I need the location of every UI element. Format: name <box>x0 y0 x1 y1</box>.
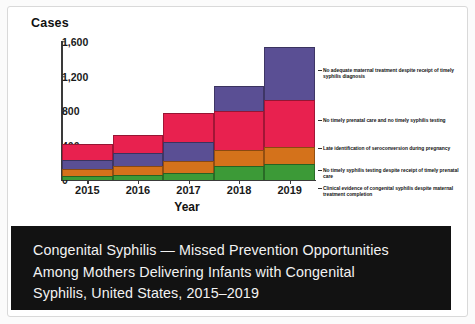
caption-line-2: Among Mothers Delivering Infants with Co… <box>33 262 433 284</box>
bar-column-2015 <box>62 42 113 180</box>
bar-segment <box>113 166 164 175</box>
annotation-text: No timely prenatal care and no timely sy… <box>323 118 446 123</box>
scanned-page: Cases 04008001,2001,600 2015201620172018… <box>0 0 475 324</box>
x-axis-tick-label-2015: 2015 <box>75 184 99 196</box>
bar-segment <box>62 169 113 175</box>
chart-figure: Cases 04008001,2001,600 2015201620172018… <box>11 10 464 220</box>
bar-segment <box>264 100 315 147</box>
caption-line-1: Congenital Syphilis — Missed Prevention … <box>33 240 433 262</box>
annotation-leader-line <box>318 148 322 149</box>
annotation-late-identification-seroconversion: Late identification of seroconversion du… <box>323 146 463 152</box>
annotation-no-timely-syphilis-testing: No timely syphilis testing despite recei… <box>323 168 463 181</box>
bar-segment <box>214 111 265 150</box>
annotation-text: No timely syphilis testing despite recei… <box>323 168 458 179</box>
x-axis-tick-mark <box>239 180 240 184</box>
plot-area <box>62 42 315 180</box>
bar-segment <box>62 176 113 180</box>
annotation-text: Clinical evidence of congenital syphilis… <box>323 186 453 197</box>
annotation-leader-line <box>318 70 322 71</box>
bar-segment <box>264 47 315 100</box>
bar-column-2019 <box>264 42 315 180</box>
bar-segment <box>62 144 113 160</box>
bar-segment <box>264 147 315 164</box>
x-axis-tick-label-2017: 2017 <box>176 184 200 196</box>
caption-line-3: Syphilis, United States, 2015–2019 <box>33 283 433 305</box>
caption-band: Congenital Syphilis — Missed Prevention … <box>11 226 451 310</box>
x-axis-tick-mark <box>290 180 291 184</box>
bar-segment <box>113 135 164 153</box>
bar-segment <box>163 142 214 161</box>
annotation-no-timely-prenatal-care: No timely prenatal care and no timely sy… <box>323 118 463 124</box>
bar-column-2017 <box>163 42 214 180</box>
annotation-clinical-evidence-congenital-syphilis: Clinical evidence of congenital syphilis… <box>323 186 463 199</box>
annotation-leader-line <box>318 170 322 171</box>
bar-segment <box>264 164 315 180</box>
bar-segment <box>214 166 265 180</box>
bar-column-2016 <box>113 42 164 180</box>
bar-segment <box>163 161 214 173</box>
x-axis-tick-mark <box>189 180 190 184</box>
annotation-no-adequate-maternal-treatment: No adequate maternal treatment despite r… <box>323 68 463 81</box>
x-axis-tick-label-2019: 2019 <box>277 184 301 196</box>
bar-segment <box>214 150 265 166</box>
x-axis-title: Year <box>174 200 199 214</box>
bar-segment <box>163 113 214 141</box>
y-axis-title: Cases <box>31 16 69 30</box>
x-axis-tick-label-2018: 2018 <box>227 184 251 196</box>
annotation-text: Late identification of seroconversion du… <box>323 146 450 151</box>
x-axis-tick-label-2016: 2016 <box>126 184 150 196</box>
bar-segment <box>62 160 113 169</box>
annotation-text: No adequate maternal treatment despite r… <box>323 68 454 79</box>
bar-segment <box>163 173 214 180</box>
x-axis-tick-mark <box>138 180 139 184</box>
annotation-leader-line <box>318 120 322 121</box>
bar-segment <box>113 175 164 180</box>
bar-segment <box>214 86 265 111</box>
x-axis-tick-mark <box>87 180 88 184</box>
bar-segment <box>113 153 164 166</box>
annotation-leader-line <box>318 188 322 189</box>
bar-column-2018 <box>214 42 265 180</box>
